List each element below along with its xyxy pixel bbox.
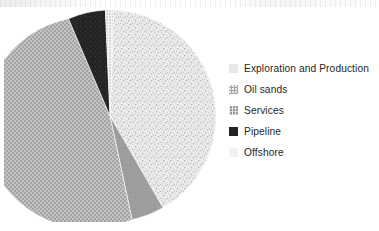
legend-label-offshore: Offshore	[244, 147, 284, 158]
legend-label-exploration-and-production: Exploration and Production	[244, 63, 369, 74]
legend-label-oil-sands: Oil sands	[244, 84, 287, 95]
legend-label-services: Services	[244, 105, 284, 116]
legend-swatch-pipeline	[229, 127, 238, 136]
pie-chart-figure: Exploration and Production Oil sands Ser…	[0, 0, 379, 231]
legend-item-exploration-and-production[interactable]: Exploration and Production	[229, 58, 379, 79]
legend-label-pipeline: Pipeline	[244, 126, 281, 137]
legend-swatch-exploration-and-production	[229, 64, 238, 73]
legend-item-pipeline[interactable]: Pipeline	[229, 121, 379, 142]
legend-swatch-oil-sands	[229, 85, 238, 94]
chart-legend: Exploration and Production Oil sands Ser…	[229, 58, 379, 163]
legend-swatch-services	[229, 106, 238, 115]
scan-artifact-band	[0, 0, 379, 7]
pie-chart-svg	[4, 10, 216, 222]
legend-swatch-offshore	[229, 148, 238, 157]
legend-item-services[interactable]: Services	[229, 100, 379, 121]
legend-item-oil-sands[interactable]: Oil sands	[229, 79, 379, 100]
pie-chart-plot-area	[4, 10, 216, 222]
legend-item-offshore[interactable]: Offshore	[229, 142, 379, 163]
